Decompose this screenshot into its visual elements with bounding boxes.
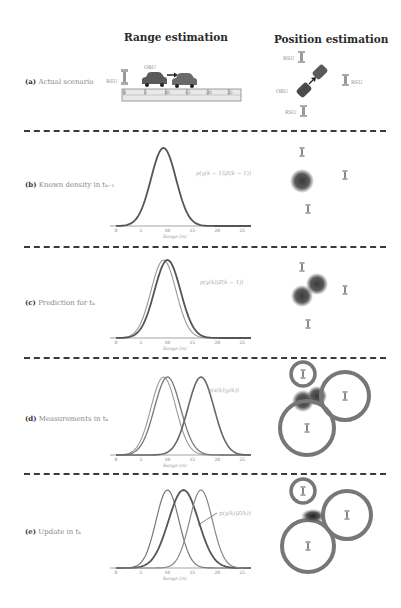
- rsu-icon: [301, 486, 306, 496]
- position-panels: [260, 130, 401, 608]
- position-density-blob: [290, 169, 314, 193]
- position-panel-c: [291, 262, 348, 329]
- annotation-c: p(y(k)|Z(k − 1)): [200, 279, 243, 286]
- rsu-icon: [345, 510, 350, 520]
- rsu-icon: [306, 319, 311, 329]
- annotation-pointer: [198, 513, 217, 525]
- predicted-density-blob: [306, 273, 328, 295]
- annotation-b: p(y(k − 1)|Z(k − 1)): [196, 170, 251, 177]
- rsu-icon: [343, 285, 348, 295]
- rsu-icon: [306, 204, 311, 214]
- annotation-e: p(y(k)|Z(k)): [219, 510, 251, 517]
- updated-density-blob: [301, 509, 325, 523]
- rsu-icon: [301, 369, 306, 379]
- rsu-icon: [300, 262, 305, 272]
- rsu-icon: [300, 147, 305, 157]
- rsu-icon: [343, 170, 348, 180]
- position-panel-d: [280, 362, 369, 455]
- rsu-icon: [343, 391, 348, 401]
- rsu-icon: [306, 541, 311, 551]
- annotation-d: p(z(k)|y(k)): [208, 387, 239, 394]
- rsu-icon: [305, 423, 310, 433]
- position-panel-e: [282, 479, 371, 572]
- position-panel-b: [290, 147, 348, 214]
